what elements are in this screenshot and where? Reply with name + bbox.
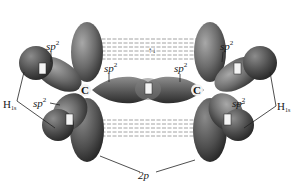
hydrogen-1s-label-right: H1s bbox=[277, 101, 290, 112]
orbital-svg: ↑↓ bbox=[0, 0, 296, 183]
hydrogen-1s-upper-right bbox=[243, 46, 277, 80]
sp2-label-top-right: sp2 bbox=[220, 41, 233, 52]
svg-text:↑↓: ↑↓ bbox=[148, 46, 156, 55]
pi-bond-overlap-bottom bbox=[96, 120, 202, 136]
2p-orbital-label: 2p bbox=[138, 170, 149, 181]
sp2-label-center-right: sp2 bbox=[174, 63, 187, 74]
sp2-label-center-left: sp2 bbox=[104, 63, 117, 74]
sp2-label-left-lower: sp2 bbox=[33, 98, 46, 109]
carbon-label-left: C bbox=[79, 84, 91, 96]
sp2-label-top-left: sp2 bbox=[46, 41, 59, 52]
sp2-label-right-lower: sp2 bbox=[232, 98, 245, 109]
hydrogen-1s-label-left: H1s bbox=[3, 99, 16, 110]
carbon-label-right: C bbox=[191, 84, 203, 96]
ethylene-orbital-diagram: ↑↓ sp2 sp2 sp2 sp2 sp2 sp2 C C H1s H1s 2… bbox=[0, 0, 296, 183]
